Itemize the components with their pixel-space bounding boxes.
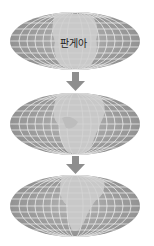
globe-breakup	[0, 93, 154, 155]
pangaea-label: 판게아	[60, 38, 87, 49]
arrow-down-icon	[66, 72, 85, 91]
globe-pangaea: 판게아	[0, 12, 154, 70]
globe-present	[0, 175, 154, 237]
continental-drift-diagram: 판게아	[0, 0, 154, 246]
arrow-down-icon	[66, 156, 85, 174]
